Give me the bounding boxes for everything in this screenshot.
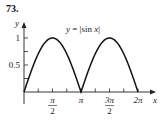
y-tick-labels: 0.51 [9,33,21,70]
x-tick-label-denominator: 2 [50,106,55,116]
x-axis-label: x [152,95,157,105]
x-tick-labels: π2π3π22π [48,95,143,116]
x-tick-marks [38,89,138,93]
x-tick-label-denominator: 2 [107,106,112,116]
y-tick-marks [24,38,28,79]
y-tick-label: 1 [16,33,21,43]
y-axis-arrow-icon [22,22,27,28]
axes [22,22,157,104]
y-axis-label: y [14,18,19,28]
x-tick-label: 2π [133,95,143,105]
y-tick-label: 0.5 [9,60,21,70]
chart-title: y = |sin x| [65,24,100,34]
x-tick-label: π [79,95,84,105]
x-tick-label-numerator: 3π [104,95,115,105]
x-axis-arrow-icon [150,90,156,95]
series-line [24,38,138,92]
chart-area: y = |sin x| x y π2π3π22π 0.51 [0,0,163,120]
x-tick-label-numerator: π [50,95,55,105]
